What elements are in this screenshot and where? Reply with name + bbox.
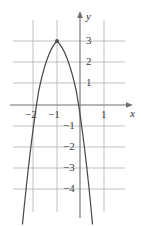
- y-tick-label-neg1: −1: [63, 120, 75, 131]
- x-axis: [10, 102, 133, 108]
- y-tick-label-neg3: −3: [63, 162, 75, 173]
- y-tick-label-neg4: −4: [63, 183, 75, 194]
- y-tick-label-neg2: −2: [63, 141, 75, 152]
- y-tick-label-2: 2: [86, 56, 92, 67]
- x-tick-label-neg2: −2: [25, 109, 37, 120]
- y-axis-arrowhead: [77, 11, 83, 18]
- x-tick-label-1: 1: [101, 109, 107, 120]
- y-tick-label-1: 1: [86, 77, 92, 88]
- vertex-point-marker: [55, 39, 59, 43]
- x-tick-label-neg1: −1: [48, 109, 60, 120]
- y-axis-label: y: [86, 11, 91, 22]
- y-tick-label-3: 3: [86, 35, 92, 46]
- graph-figure: 3 2 1 −1 −2 −3 −4 −2 −1 1 y x: [0, 0, 141, 226]
- x-axis-label: x: [130, 108, 135, 119]
